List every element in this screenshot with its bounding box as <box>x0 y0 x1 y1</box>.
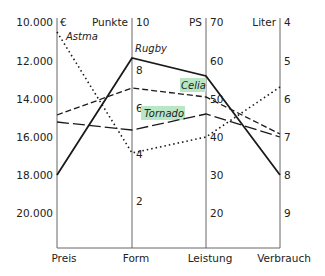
category-verbrauch: Verbrauch <box>257 252 311 264</box>
tick: 18.000 <box>16 169 53 181</box>
tick: 20.000 <box>16 207 53 219</box>
tick: 8 <box>136 64 143 76</box>
unit-verbrauch: Liter <box>252 16 276 28</box>
tick: 6 <box>284 93 291 105</box>
tick: 20 <box>210 207 223 219</box>
parallel-coordinates-chart: € Punkte PS Liter 10.000 12.000 14.000 1… <box>0 0 325 276</box>
series-lines <box>57 32 280 175</box>
unit-form: Punkte <box>92 16 128 28</box>
tick: 8 <box>284 169 291 181</box>
tick: 14.000 <box>16 93 53 105</box>
series-label-astma: Astma <box>65 31 98 42</box>
tick: 70 <box>210 16 223 28</box>
axes <box>57 18 280 248</box>
series-label-tornado: Tornado <box>144 108 184 119</box>
category-leistung: Leistung <box>188 252 233 264</box>
category-form: Form <box>123 252 149 264</box>
preis-ticks: 10.000 12.000 14.000 16.000 18.000 20.00… <box>16 16 53 219</box>
unit-leistung: PS <box>189 16 202 28</box>
tick: 16.000 <box>16 131 53 143</box>
series-label-rugby: Rugby <box>135 43 168 54</box>
tick: 30 <box>210 169 223 181</box>
tick: 12.000 <box>16 55 53 67</box>
tick: 50 <box>210 93 223 105</box>
series-label-celia: Celia <box>181 80 206 91</box>
tick: 10.000 <box>16 16 53 28</box>
tick: 2 <box>136 195 143 207</box>
unit-preis: € <box>60 16 67 28</box>
series-astma-line <box>57 32 280 153</box>
tick: 4 <box>136 148 143 160</box>
tick: 60 <box>210 55 223 67</box>
tick: 4 <box>284 16 291 28</box>
tick: 9 <box>284 207 291 219</box>
tick: 10 <box>136 16 149 28</box>
category-preis: Preis <box>51 252 76 264</box>
verbrauch-ticks: 4 5 6 7 8 9 <box>284 16 291 219</box>
tick: 7 <box>284 131 291 143</box>
tick: 5 <box>284 55 291 67</box>
